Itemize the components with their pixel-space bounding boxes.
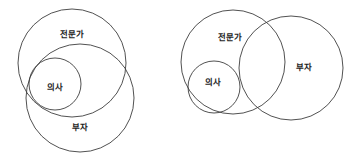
left-expert-circle (18, 9, 126, 117)
left-expert-label: 전문가 (60, 29, 84, 39)
right-doctor-circle (188, 61, 240, 113)
right-doctor-label: 의사 (205, 77, 221, 87)
left-rich-label: 부자 (72, 122, 88, 132)
left-doctor-label: 의사 (47, 82, 63, 92)
right-expert-label: 전문가 (218, 32, 242, 42)
right-rich-circle (239, 16, 343, 120)
right-expert-circle (181, 10, 285, 114)
diagram-canvas: 전문가 부자 의사 전문가 부자 의사 (0, 0, 348, 167)
right-rich-label: 부자 (296, 62, 312, 72)
right-venn-diagram: 전문가 부자 의사 (181, 10, 343, 120)
left-rich-circle (26, 44, 134, 152)
left-venn-diagram: 전문가 부자 의사 (18, 9, 134, 152)
venn-diagram-figure: 전문가 부자 의사 전문가 부자 의사 (0, 0, 348, 167)
